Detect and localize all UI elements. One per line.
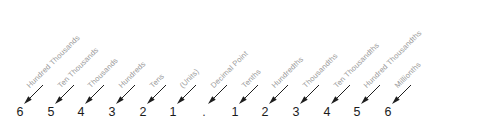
place-value-label: Hundreds: [118, 60, 148, 90]
place-value-digit: 1: [170, 106, 177, 119]
place-value-label: Thousands: [87, 57, 120, 90]
place-value-digit: 2: [140, 106, 147, 119]
place-value-label: Hundred Thousandths: [363, 29, 423, 89]
place-value-label: Hundredths: [271, 55, 305, 89]
place-value-digit: 2: [262, 106, 269, 119]
place-value-label: (Units): [179, 68, 201, 90]
place-value-chart: Hundred Thousands6Ten Thousands5Thousand…: [0, 0, 484, 137]
place-value-digit: 6: [17, 106, 24, 119]
place-value-digit: 4: [324, 106, 331, 119]
place-value-digit: 3: [109, 106, 116, 119]
place-value-label: Millionths: [394, 61, 423, 90]
place-value-label: Tens: [149, 72, 166, 89]
decimal-point: .: [202, 106, 205, 119]
place-value-label: Tenths: [241, 68, 263, 90]
place-value-digit: 4: [78, 106, 85, 119]
place-value-digit: 3: [293, 106, 300, 119]
place-value-digit: 1: [232, 106, 239, 119]
place-value-digit: 5: [354, 106, 361, 119]
place-value-label: Hundred Thousands: [26, 34, 82, 90]
place-value-digit: 6: [385, 106, 392, 119]
place-value-digit: 5: [48, 106, 55, 119]
